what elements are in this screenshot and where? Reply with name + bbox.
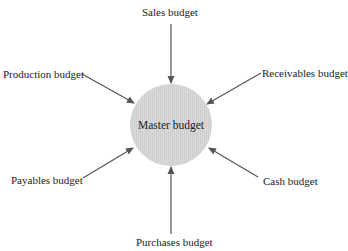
arrow-production-to-master bbox=[82, 74, 134, 103]
master-budget-label: Master budget bbox=[138, 119, 204, 132]
payables-budget-label: Payables budget bbox=[11, 174, 83, 186]
arrow-payables-to-master bbox=[83, 148, 133, 178]
sales-budget-label: Sales budget bbox=[142, 6, 198, 18]
receivables-budget-label: Receivables budget bbox=[262, 67, 348, 79]
cash-budget-label: Cash budget bbox=[263, 175, 318, 187]
production-budget-label: Production budget bbox=[3, 68, 84, 80]
arrow-receivables-to-master bbox=[207, 73, 261, 104]
purchases-budget-label: Purchases budget bbox=[136, 236, 213, 248]
arrow-cash-to-master bbox=[209, 148, 258, 177]
